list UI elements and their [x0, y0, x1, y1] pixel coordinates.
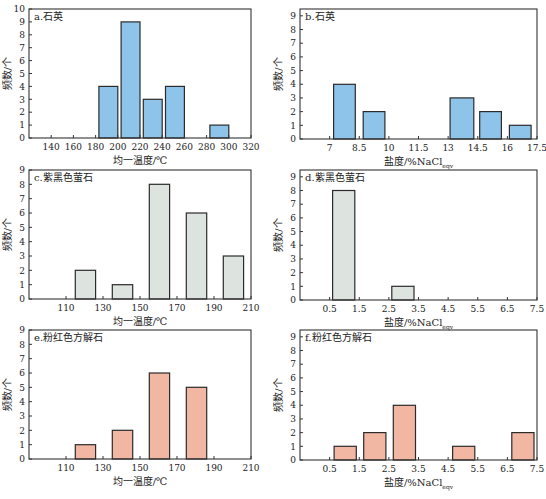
bar — [334, 446, 356, 460]
y-tick-label: 0 — [19, 294, 25, 304]
x-tick-label: 13 — [442, 143, 454, 153]
y-axis-title: 频数/个 — [272, 378, 284, 411]
bar — [75, 270, 95, 299]
bar — [166, 86, 185, 138]
y-tick-label: 1 — [290, 282, 296, 292]
bar — [186, 213, 206, 299]
x-tick-label: 6.5 — [500, 464, 515, 474]
bar — [75, 445, 95, 459]
plot-frame — [300, 330, 537, 460]
x-tick-label: 5.5 — [471, 304, 486, 314]
y-tick-label: 4 — [290, 79, 296, 89]
y-tick-label: 2 — [290, 268, 296, 278]
bar — [112, 285, 132, 299]
x-tick-label: 8.5 — [352, 143, 367, 153]
x-tick-label: 210 — [242, 463, 259, 473]
x-tick-label: 220 — [131, 142, 148, 152]
bar — [364, 433, 386, 460]
y-tick-label: 9 — [290, 172, 296, 182]
y-tick-label: 3 — [290, 254, 296, 264]
bars — [75, 373, 206, 459]
y-tick-label: 7 — [290, 359, 296, 369]
y-tick-label: 8 — [19, 30, 25, 40]
y-tick-label: 4 — [290, 400, 296, 410]
y-tick-label: 8 — [19, 340, 25, 350]
panel-title: c.紫黑色萤石 — [34, 171, 93, 183]
panel-title: a.石英 — [34, 10, 63, 22]
x-tick-label: 180 — [87, 142, 104, 152]
y-tick-label: 5 — [19, 223, 25, 233]
y-tick-label: 4 — [290, 240, 296, 250]
x-tick-label: 14.5 — [468, 143, 488, 153]
x-tick-label: 17.5 — [527, 143, 546, 153]
y-tick-label: 1 — [19, 280, 25, 290]
y-tick-label: 9 — [19, 325, 25, 335]
bar — [334, 84, 356, 139]
x-tick-label: 140 — [43, 142, 60, 152]
x-tick-label: 170 — [168, 303, 185, 313]
bar — [333, 191, 355, 301]
y-tick-label: 3 — [290, 93, 296, 103]
bars — [75, 184, 243, 299]
panel-title: e.粉红色方解石 — [34, 331, 103, 343]
y-tick-label: 5 — [19, 69, 25, 79]
x-tick-label: 3.5 — [411, 304, 426, 314]
x-tick-label: 110 — [57, 463, 74, 473]
x-tick-label: 1.5 — [352, 304, 367, 314]
x-tick-label: 130 — [94, 303, 111, 313]
y-tick-label: 4 — [19, 237, 25, 247]
x-tick-label: 2.5 — [382, 464, 397, 474]
y-tick-label: 7 — [290, 38, 296, 48]
x-axis-title: 盐度/%NaCleqv — [384, 316, 454, 331]
x-tick-label: 190 — [205, 463, 222, 473]
y-axis-ticks: 0123456789 — [19, 325, 32, 464]
y-tick-label: 6 — [19, 56, 25, 66]
y-tick-label: 9 — [19, 165, 25, 175]
x-tick-label: 320 — [242, 142, 259, 152]
y-tick-label: 1 — [19, 120, 25, 130]
y-tick-label: 0 — [290, 295, 296, 305]
x-tick-label: 300 — [220, 142, 237, 152]
x-tick-label: 7.5 — [530, 464, 545, 474]
panel-title: f.粉红色方解石 — [305, 331, 372, 343]
y-tick-label: 3 — [19, 95, 25, 105]
y-tick-label: 10 — [14, 4, 26, 14]
x-axis-title: 盐度/%NaCleqv — [384, 155, 454, 170]
bars — [333, 191, 414, 301]
panel-title: b.石英 — [305, 10, 335, 22]
y-tick-label: 5 — [19, 383, 25, 393]
bar — [186, 387, 206, 459]
y-axis-title: 频数/个 — [1, 378, 13, 411]
y-axis-ticks: 0123456789 — [19, 165, 32, 304]
panel-e: 0123456789110130150170190210e.粉红色方解石均一温度… — [1, 325, 260, 487]
y-tick-label: 3 — [290, 414, 296, 424]
x-tick-label: 0.5 — [322, 304, 337, 314]
x-tick-label: 6.5 — [500, 304, 515, 314]
x-tick-label: 190 — [205, 303, 222, 313]
y-axis-ticks: 0123456789 — [290, 332, 303, 465]
y-tick-label: 6 — [19, 368, 25, 378]
x-tick-label: 7.5 — [530, 304, 545, 314]
y-tick-label: 7 — [19, 354, 25, 364]
bar — [99, 86, 118, 138]
x-tick-label: 4.5 — [441, 304, 456, 314]
x-tick-label: 110 — [57, 303, 74, 313]
panel-b: 012345678978.51011.51314.51617.5b.石英盐度/%… — [272, 9, 546, 170]
y-axis-title: 频数/个 — [1, 218, 13, 251]
bar — [210, 125, 229, 138]
y-tick-label: 7 — [290, 199, 296, 209]
x-tick-label: 150 — [131, 463, 148, 473]
y-tick-label: 3 — [19, 251, 25, 261]
bars — [334, 405, 534, 460]
x-tick-label: 200 — [109, 142, 126, 152]
x-tick-label: 5.5 — [471, 464, 486, 474]
bar — [121, 22, 140, 138]
x-tick-label: 170 — [168, 463, 185, 473]
x-tick-label: 280 — [198, 142, 215, 152]
bar — [112, 430, 132, 459]
y-tick-label: 2 — [290, 107, 296, 117]
panel-a: 0123456789101401601802002202402602803003… — [1, 4, 260, 166]
y-tick-label: 7 — [19, 43, 25, 53]
panel-c: 0123456789110130150170190210c.紫黑色萤石均一温度/… — [1, 165, 260, 327]
y-tick-label: 1 — [19, 440, 25, 450]
